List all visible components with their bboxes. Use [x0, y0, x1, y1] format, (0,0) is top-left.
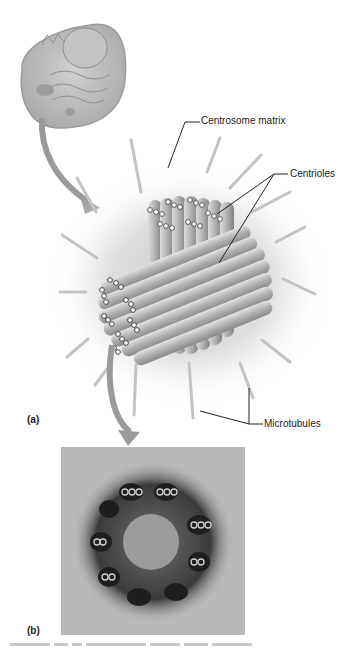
panel-label-a: (a) — [27, 414, 39, 425]
panel-label-b: (b) — [27, 625, 40, 636]
cropped-figure-caption — [10, 643, 310, 651]
label-microtubules: Microtubules — [264, 418, 321, 429]
micrograph-texture — [61, 447, 245, 635]
electron-micrograph — [61, 447, 245, 635]
nucleus — [63, 28, 107, 68]
label-centrioles: Centrioles — [290, 168, 335, 179]
label-centrosome-matrix: Centrosome matrix — [201, 115, 285, 126]
cell-illustration — [21, 24, 125, 128]
